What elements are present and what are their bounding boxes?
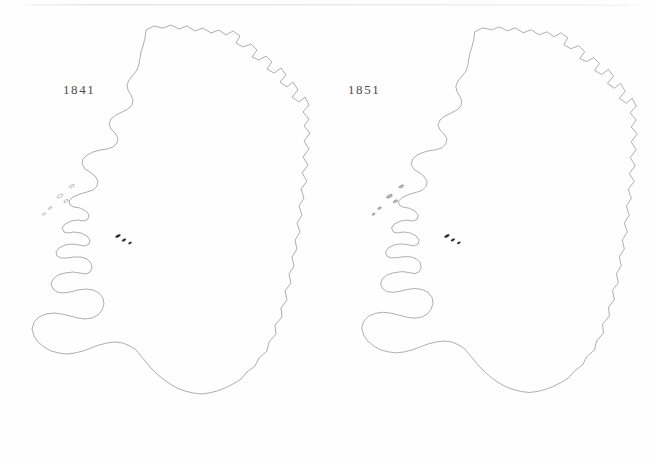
island-polygon bbox=[444, 234, 450, 239]
map-panel-1851 bbox=[330, 0, 657, 461]
island-polygon bbox=[115, 234, 121, 239]
island-polygon bbox=[386, 194, 393, 199]
island-polygon bbox=[128, 241, 132, 244]
island-polygon bbox=[42, 212, 46, 215]
island-polygon bbox=[63, 199, 68, 203]
island-polygon bbox=[457, 241, 461, 244]
choropleth-svg-1851 bbox=[330, 0, 657, 461]
island-polygon bbox=[69, 184, 75, 189]
year-label-1851: 1851 bbox=[348, 82, 380, 98]
island-polygon bbox=[57, 193, 64, 198]
island-polygon bbox=[372, 213, 376, 216]
island-polygon bbox=[48, 206, 52, 210]
island-polygon bbox=[393, 199, 398, 203]
island-polygon bbox=[399, 184, 405, 189]
coastline-outline bbox=[362, 27, 637, 393]
island-polygon bbox=[450, 238, 455, 242]
coastline-outline bbox=[32, 25, 310, 394]
year-label-1841: 1841 bbox=[63, 82, 95, 98]
island-polygon bbox=[122, 238, 127, 242]
offshore-islands bbox=[42, 184, 132, 245]
island-polygon bbox=[377, 206, 381, 210]
map-plate: 1841 1851 bbox=[0, 0, 657, 461]
offshore-islands bbox=[372, 184, 461, 244]
map-panel-1841 bbox=[0, 0, 330, 461]
choropleth-svg-1841 bbox=[0, 0, 330, 461]
